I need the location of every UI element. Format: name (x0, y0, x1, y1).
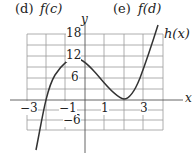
h-curve (36, 25, 158, 150)
function-label: h(x) (164, 26, 190, 41)
x-tick-1: 1 (101, 101, 109, 115)
axes (10, 22, 183, 153)
x-tick-neg1: −1 (59, 101, 77, 115)
y-tick-18: 18 (66, 26, 81, 40)
x-tick-neg3: −3 (20, 101, 38, 115)
y-axis-label: y (81, 12, 88, 26)
y-tick-12: 12 (66, 48, 81, 62)
grid (27, 34, 163, 130)
x-axis-label: x (185, 91, 192, 105)
y-tick-neg6: −6 (63, 113, 81, 127)
y-tick-6: 6 (71, 70, 79, 84)
x-tick-3: 3 (140, 101, 148, 115)
function-graph (0, 0, 193, 153)
